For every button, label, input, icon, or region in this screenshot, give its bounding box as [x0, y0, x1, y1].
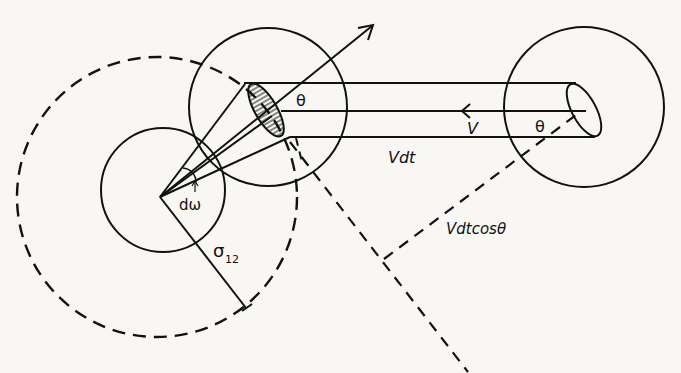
molecule-1-circle: [101, 128, 225, 252]
diagram-canvas: θ θ V Vdt dω σ 12 Vdtcosθ: [0, 0, 681, 373]
label-sigma-subscript: 12: [225, 253, 239, 266]
diagram-svg: θ θ V Vdt dω σ 12 Vdtcosθ: [0, 0, 681, 373]
label-velocity: V: [467, 119, 479, 138]
label-theta-right: θ: [535, 117, 545, 136]
dashed-plane-line: [290, 142, 468, 372]
label-vdt: Vdt: [388, 148, 416, 167]
cone-line-upper: [160, 84, 245, 197]
label-sigma: σ: [213, 240, 224, 261]
label-vdt-cos-theta: Vdtcosθ: [446, 220, 506, 238]
label-d-omega: dω: [179, 196, 201, 214]
label-theta-left: θ: [296, 91, 306, 110]
molecule-3-circle: [504, 27, 664, 187]
